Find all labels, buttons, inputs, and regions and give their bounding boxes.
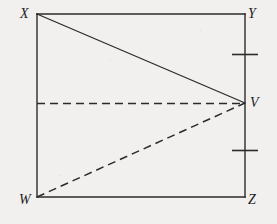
paper-speckle — [200, 30, 201, 31]
vertex-label-z: Z — [248, 193, 256, 207]
geometry-figure: X Y V W Z — [0, 0, 277, 224]
vertex-label-v: V — [250, 96, 259, 110]
paper-speckle — [60, 175, 61, 176]
paper-speckle — [110, 60, 111, 61]
vertex-label-x: X — [20, 7, 29, 21]
vertex-label-y: Y — [248, 7, 256, 21]
segment-WV — [37, 103, 245, 197]
segment-XV — [37, 14, 245, 103]
figure-canvas — [0, 0, 277, 224]
vertex-label-w: W — [19, 193, 31, 207]
